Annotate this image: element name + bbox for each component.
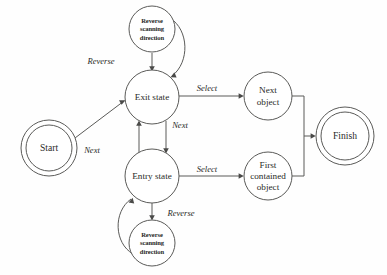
node-entry-state-label: Entry state — [132, 171, 172, 181]
node-next-object-line1: Next — [259, 85, 277, 95]
node-first-contained-object[interactable]: First contained object — [244, 152, 292, 200]
node-reverse-scanning-bottom[interactable]: Reverse scanning direction — [129, 220, 175, 266]
node-finish-label: Finish — [333, 130, 357, 141]
edge-label-select-bottom: Select — [197, 164, 218, 174]
edge-exit-to-reverse-top — [149, 53, 155, 72]
edge-label-select-top: Select — [197, 83, 218, 93]
edge-entry-to-exit — [136, 121, 142, 154]
node-reverse-scanning-top-line2: scanning — [140, 25, 165, 32]
node-reverse-scanning-bottom-line2: scanning — [140, 239, 165, 246]
edge-entry-to-first-contained — [179, 173, 244, 179]
node-exit-state-label: Exit state — [135, 92, 169, 102]
nodes-layer: Start Reverse scanning direction Exit st… — [21, 6, 374, 266]
node-reverse-scanning-top-line1: Reverse — [141, 17, 163, 24]
edge-entry-to-reverse-bottom — [149, 203, 155, 221]
edge-label-reverse-bottom: Reverse — [166, 208, 194, 218]
edge-exit-to-next-object — [179, 93, 244, 99]
edge-start-to-exit — [75, 100, 126, 138]
node-start-label: Start — [40, 142, 58, 153]
edge-label-next-exit-to-entry: Next — [171, 120, 188, 130]
node-reverse-scanning-top[interactable]: Reverse scanning direction — [129, 6, 175, 52]
edge-exit-to-entry — [163, 121, 169, 154]
state-diagram: Start Reverse scanning direction Exit st… — [0, 0, 387, 275]
node-first-contained-object-line2: contained — [250, 171, 286, 181]
node-reverse-scanning-bottom-line1: Reverse — [141, 231, 163, 238]
node-reverse-scanning-top-line3: direction — [140, 34, 165, 41]
node-entry-state[interactable]: Entry state — [125, 149, 179, 203]
node-start[interactable]: Start — [21, 120, 77, 176]
node-first-contained-object-line3: object — [257, 182, 280, 192]
node-next-object-line2: object — [257, 97, 280, 107]
node-reverse-scanning-bottom-line3: direction — [140, 248, 165, 255]
node-first-contained-object-line1: First — [260, 160, 277, 170]
node-finish[interactable]: Finish — [316, 107, 374, 165]
edge-objects-to-finish — [292, 96, 316, 176]
diagram-canvas: Start Reverse scanning direction Exit st… — [0, 0, 387, 275]
node-exit-state[interactable]: Exit state — [125, 70, 179, 124]
node-next-object[interactable]: Next object — [244, 72, 292, 120]
edges-layer — [75, 18, 316, 254]
edge-label-reverse-top: Reverse — [86, 56, 114, 66]
edge-label-next-start: Next — [83, 145, 100, 155]
